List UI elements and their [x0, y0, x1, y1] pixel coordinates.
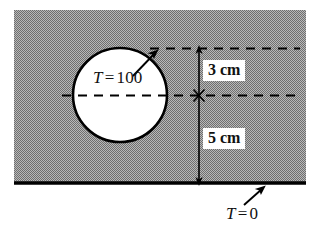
hole-temperature-symbol: T	[93, 68, 103, 87]
plate-temperature-leader-arrow	[244, 186, 266, 205]
plate-temperature-value: 0	[249, 204, 258, 223]
plate-temperature-equals: =	[236, 204, 250, 223]
hole-temperature-label: T=100	[93, 69, 143, 86]
plate-temperature-symbol: T	[226, 204, 236, 223]
upper-dimension-label: 3 cm	[203, 60, 245, 81]
hole-temperature-value: 100	[116, 68, 142, 87]
lower-dimension-label: 5 cm	[203, 128, 245, 149]
plate-temperature-label: T=0	[226, 205, 258, 222]
figure-container: T=100 T=0 3 cm 5 cm	[0, 0, 328, 241]
hole-temperature-equals: =	[103, 68, 117, 87]
heat-conduction-diagram	[0, 0, 328, 241]
